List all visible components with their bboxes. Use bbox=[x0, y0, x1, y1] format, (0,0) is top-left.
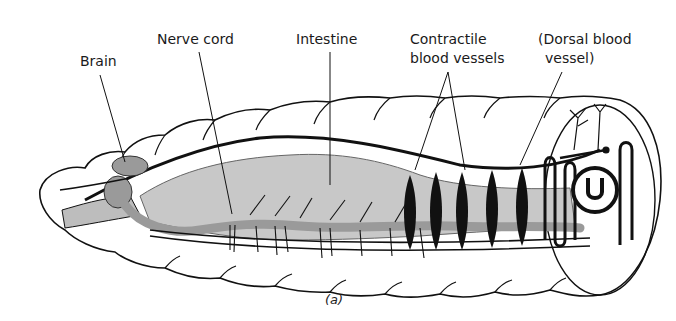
label-intestine: Intestine bbox=[296, 31, 357, 48]
label-brain: Brain bbox=[80, 53, 117, 70]
label-contractile-line2: blood vessels bbox=[410, 50, 505, 67]
label-contractile-line1: Contractile bbox=[410, 31, 487, 48]
figure-caption: (a) bbox=[325, 292, 343, 307]
intestine-cross-section bbox=[573, 168, 617, 212]
label-dorsal-line1: (Dorsal blood bbox=[538, 31, 632, 48]
brain-organ bbox=[112, 156, 148, 176]
label-nerve-cord: Nerve cord bbox=[157, 31, 234, 48]
label-dorsal-line2: vessel) bbox=[545, 50, 594, 67]
earthworm-diagram bbox=[0, 0, 676, 321]
